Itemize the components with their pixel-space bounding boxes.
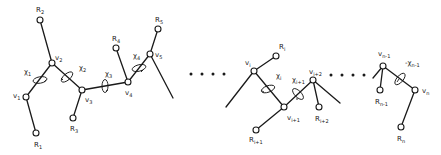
rotation-chii-icon (260, 84, 275, 95)
bond-r3-v3 (73, 90, 82, 118)
chain-segment-start: R2 v2 χ1 χ2 v1 R1 v3 R3 χ3 R4 v4 χ4 R5 v… (13, 6, 173, 150)
label-chin1: -χn-1 (405, 59, 420, 68)
label-r4: R4 (112, 35, 120, 44)
bond-v2-v3 (52, 63, 82, 90)
atom-vi1 (281, 104, 287, 110)
label-r2: R2 (36, 6, 44, 15)
bond-vn1-vn (383, 66, 415, 90)
atom-r5 (155, 26, 161, 32)
ellipsis-dots-2 (330, 74, 366, 77)
ellipsis-dots-1 (190, 73, 226, 76)
label-v3: v3 (85, 96, 92, 105)
atom-ri (273, 53, 279, 59)
label-v5: v5 (155, 51, 162, 60)
atom-r3 (70, 115, 76, 121)
atom-r1 (33, 130, 39, 136)
bond-ri-vi (254, 56, 276, 71)
label-r1: R1 (34, 141, 42, 150)
atom-ri2 (316, 104, 322, 110)
bond-ri1-vi1 (256, 107, 284, 130)
label-v2: v2 (55, 54, 62, 63)
label-vn: vn (422, 87, 429, 96)
atom-v5 (147, 51, 153, 57)
label-vi1: vi+1 (287, 114, 300, 123)
label-chi4: χ4 (133, 52, 140, 61)
chain-segment-middle: Ri vi χi χi+1 vi+2 vi+1 Ri+2 Ri+1 (226, 43, 340, 145)
label-vi2: vi+2 (309, 68, 322, 77)
label-r5: R5 (155, 16, 163, 25)
label-rn1: Rn-1 (375, 98, 388, 107)
label-chii1: χi+1 (292, 76, 305, 85)
bond-head-vi (226, 71, 254, 107)
bond-r1-v1 (26, 97, 36, 133)
bond-r4-v4 (116, 48, 128, 82)
atom-v4 (125, 79, 131, 85)
label-chi3: χ3 (105, 70, 112, 79)
label-ri: Ri (279, 43, 285, 52)
label-r3: R3 (70, 125, 78, 134)
bond-rn-vn (401, 90, 415, 127)
label-vn1: vn-1 (378, 50, 390, 59)
label-chii: χi (276, 72, 281, 81)
polymer-chain-diagram: R2 v2 χ1 χ2 v1 R1 v3 R3 χ3 R4 v4 χ4 R5 v… (0, 0, 441, 155)
label-rn: Rn (397, 135, 405, 144)
label-chi1: χ1 (24, 68, 31, 77)
label-v4: v4 (125, 89, 132, 98)
rotation-chi1-icon (33, 76, 48, 85)
atom-vn1 (380, 63, 386, 69)
bond-r2-v2 (40, 20, 52, 63)
bond-v5-tail (150, 54, 173, 98)
label-ri1: Ri+1 (249, 136, 263, 145)
atom-r4 (113, 45, 119, 51)
label-vi: vi (245, 59, 251, 68)
atom-rn1 (377, 87, 383, 93)
bond-v3-v4 (82, 82, 128, 90)
atom-rn (398, 124, 404, 130)
chain-segment-end: vn-1 -χn-1 vn Rn-1 Rn (373, 50, 429, 144)
atom-r2 (37, 17, 43, 23)
bond-v1-v2 (26, 63, 52, 97)
atom-vn (412, 87, 418, 93)
label-v1: v1 (13, 92, 20, 101)
atom-v1 (23, 94, 29, 100)
atom-v3 (79, 87, 85, 93)
label-chi2: χ2 (79, 64, 86, 73)
label-ri2: Ri+2 (315, 115, 329, 124)
atom-vi (251, 68, 257, 74)
atom-vi2 (310, 77, 316, 83)
atom-ri1 (253, 127, 259, 133)
